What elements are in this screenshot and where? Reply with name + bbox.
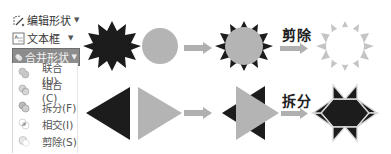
black-left-triangle (86, 87, 130, 140)
arrow-icon (184, 42, 212, 54)
subtract-operation-label: 剪除 (282, 24, 312, 44)
hollow-star-outline (316, 21, 374, 71)
arrow-icon (184, 107, 212, 119)
gray-circle (142, 28, 178, 64)
gray-right-triangle (138, 87, 182, 140)
overlapping-triangles (222, 86, 279, 140)
merge-shapes-diagram (0, 0, 391, 154)
fragmented-hexagram (313, 85, 377, 141)
black-spiky-star (83, 21, 141, 71)
star-with-circle-overlay (215, 21, 273, 71)
fragment-operation-label: 拆分 (282, 90, 312, 110)
arrow-icon (280, 43, 308, 54)
